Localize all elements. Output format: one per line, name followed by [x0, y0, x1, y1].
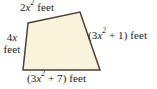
side-label-right: (3x2 + 1) feet: [88, 30, 147, 42]
right-exponent: 2: [102, 27, 106, 35]
bottom-exponent: 2: [41, 70, 45, 78]
right-operator: +: [109, 29, 115, 41]
bottom-close-paren: ): [63, 72, 67, 84]
right-close-paren: ): [124, 29, 128, 41]
left-measure: 4x: [0, 32, 24, 44]
side-label-bottom: (3x2 + 7) feet: [27, 73, 86, 85]
left-variable: x: [12, 31, 17, 43]
side-label-top: 2x2 feet: [20, 2, 54, 14]
side-label-left: 4x feet: [0, 32, 24, 55]
bottom-operator: +: [48, 72, 54, 84]
bottom-unit: feet: [69, 72, 86, 84]
top-unit: feet: [37, 1, 54, 13]
top-exponent: 2: [31, 0, 35, 7]
left-unit: feet: [0, 44, 24, 56]
geometry-figure: 2x2 feet 4x feet (3x2 + 1) feet (3x2 + 7…: [0, 0, 157, 89]
right-unit: feet: [130, 29, 147, 41]
top-variable: x: [26, 1, 31, 13]
